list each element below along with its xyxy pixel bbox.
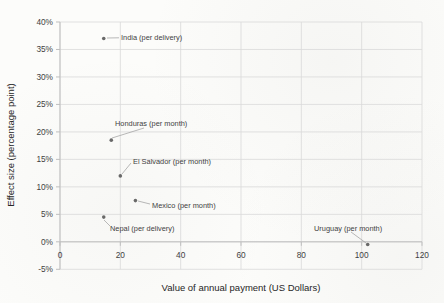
y-tick-label: 0% [41, 237, 54, 247]
y-tick-label: 10% [36, 182, 53, 192]
point-label: Nepal (per delivery) [110, 224, 175, 233]
x-tick-label: 80 [297, 250, 307, 260]
y-tick-label: -5% [38, 264, 53, 274]
leader-line [122, 163, 131, 174]
tick-labels: 40%35%30%25%20%15%10%5%0%-5%020406080100… [36, 17, 429, 274]
y-tick-label: 5% [41, 209, 54, 219]
x-tick-label: 100 [355, 250, 369, 260]
x-tick-label: 120 [415, 250, 429, 260]
y-tick-label: 35% [36, 44, 53, 54]
scatter-plot: 40%35%30%25%20%15%10%5%0%-5%020406080100… [0, 0, 444, 303]
data-point [102, 215, 106, 219]
data-point [119, 174, 123, 178]
point-label: India (per delivery) [121, 33, 182, 42]
data-point [109, 138, 113, 142]
point-label: El Salvador (per month) [133, 157, 211, 166]
chart-figure: 40%35%30%25%20%15%10%5%0%-5%020406080100… [0, 0, 444, 303]
y-tick-label: 20% [36, 127, 53, 137]
point-annotations: India (per delivery)Honduras (per month)… [104, 33, 382, 243]
x-tick-label: 40 [176, 250, 186, 260]
y-tick-label: 30% [36, 72, 53, 82]
y-tick-label: 40% [36, 17, 53, 27]
x-tick-label: 20 [116, 250, 126, 260]
y-tick-label: 15% [36, 154, 53, 164]
data-point [102, 37, 106, 41]
point-label: Honduras (per month) [115, 119, 187, 128]
point-label: Mexico (per month) [152, 201, 216, 210]
data-point [134, 199, 138, 203]
y-axis-title: Effect size (percentage point) [5, 83, 16, 206]
point-label: Uruguay (per month) [314, 224, 382, 233]
data-point [366, 243, 370, 247]
leader-line [138, 201, 150, 204]
x-axis-title: Value of annual payment (US Dollars) [162, 282, 321, 293]
y-tick-label: 25% [36, 99, 53, 109]
x-tick-label: 0 [58, 250, 63, 260]
data-points [102, 37, 370, 247]
x-tick-label: 60 [236, 250, 246, 260]
leader-line [112, 128, 144, 138]
